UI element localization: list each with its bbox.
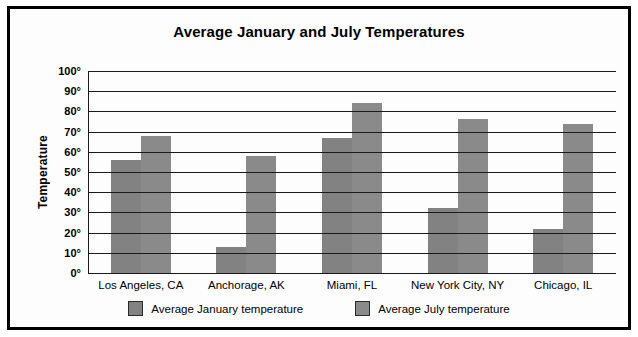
bar-january (216, 247, 246, 273)
category-label: Anchorage, AK (208, 279, 285, 291)
bar-january (428, 208, 458, 273)
category-label: Miami, FL (327, 279, 377, 291)
gridline-70 (88, 132, 616, 133)
y-axis-tick-label: 30° (64, 206, 81, 218)
y-axis-title-label: Temperature (36, 135, 50, 209)
y-axis-tick-label: 80° (64, 105, 81, 117)
y-axis-tick-label: 40° (64, 186, 81, 198)
legend-label: Average July temperature (378, 303, 509, 315)
gridline-40 (88, 192, 616, 193)
bar-january (533, 229, 563, 273)
bar-july (246, 156, 276, 273)
gridline-80 (88, 111, 616, 112)
gridline-30 (88, 212, 616, 213)
gridline-10 (88, 253, 616, 254)
legend-swatch (128, 301, 143, 316)
gridline-100 (88, 71, 616, 72)
y-axis-title: Temperature (36, 71, 50, 273)
y-axis-tick-label: 0° (70, 267, 81, 279)
bar-july (563, 124, 593, 273)
bar-july (458, 119, 488, 273)
legend-swatch (355, 301, 370, 316)
legend-label: Average January temperature (151, 303, 303, 315)
y-axis-tick-label: 60° (64, 146, 81, 158)
bar-july (352, 103, 382, 273)
gridline-90 (88, 91, 616, 92)
y-axis-tick-label: 100° (58, 65, 81, 77)
gridline-50 (88, 172, 616, 173)
chart-title: Average January and July Temperatures (10, 23, 628, 40)
gridline-20 (88, 233, 616, 234)
y-axis-tick-label: 10° (64, 247, 81, 259)
chart-frame: Average January and July Temperatures Te… (7, 6, 631, 330)
legend-item: Average January temperature (128, 301, 303, 316)
gridline-0 (88, 273, 616, 274)
y-axis-tick-label: 20° (64, 227, 81, 239)
gridline-60 (88, 152, 616, 153)
y-axis-tick-label: 70° (64, 126, 81, 138)
category-axis-labels: Los Angeles, CAAnchorage, AKMiami, FLNew… (88, 279, 616, 297)
y-axis-tick-label: 50° (64, 166, 81, 178)
y-axis-tick-label: 90° (64, 85, 81, 97)
category-label: Los Angeles, CA (98, 279, 183, 291)
chart-legend: Average January temperatureAverage July … (10, 301, 628, 316)
category-label: New York City, NY (411, 279, 504, 291)
legend-item: Average July temperature (355, 301, 509, 316)
category-label: Chicago, IL (534, 279, 592, 291)
plot-area: 0°10°20°30°40°50°60°70°80°90°100° (88, 71, 616, 273)
bar-january (111, 160, 141, 273)
